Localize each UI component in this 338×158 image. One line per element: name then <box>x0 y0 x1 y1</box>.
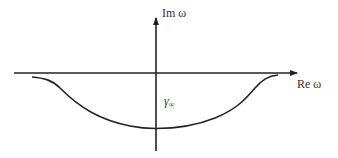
diagram-graphics <box>0 0 338 158</box>
contour-label-subscript: ∞ <box>169 100 175 109</box>
contour-gamma-infinity <box>32 75 278 129</box>
contour-label: γ∞ <box>164 95 174 109</box>
real-axis-label: Re ω <box>297 78 321 90</box>
imaginary-axis-label: Im ω <box>162 7 186 19</box>
complex-plane-diagram: Im ω Re ω γ∞ <box>0 0 338 158</box>
